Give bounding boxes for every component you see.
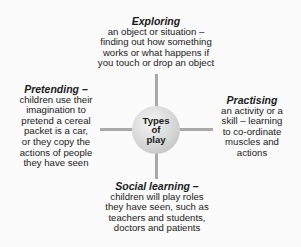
node-practising: Practising an activity or a skill – lear…	[212, 95, 292, 159]
node-title: Practising	[212, 95, 292, 106]
node-text: you touch or drop an object	[86, 58, 226, 69]
node-text: actions	[212, 148, 292, 159]
node-title: Exploring	[86, 16, 226, 27]
connector-bottom	[155, 153, 158, 179]
node-text: or they copy the	[12, 137, 100, 148]
node-exploring: Exploring an object or situation – findi…	[86, 16, 226, 69]
connector-top	[155, 74, 158, 107]
center-hub: Types of play	[132, 106, 180, 154]
node-text: doctors and patients	[93, 223, 221, 234]
node-title: Social learning –	[93, 181, 221, 192]
connector-left	[100, 128, 133, 131]
hub-label-line: play	[142, 135, 169, 145]
node-pretending: Pretending – children use their imaginat…	[12, 84, 100, 169]
node-title: Pretending –	[12, 84, 100, 95]
node-text: they have seen	[12, 158, 100, 169]
node-social-learning: Social learning – children will play rol…	[93, 181, 221, 234]
connector-right	[179, 128, 213, 131]
